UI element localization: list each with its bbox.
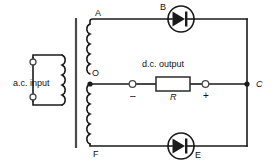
circuit-diagram: a.c. input d.c. output A B C E F O R – + xyxy=(0,0,277,165)
node-a-label: A xyxy=(95,9,101,18)
node-f-label: F xyxy=(93,150,99,159)
dc-output-negative-sign: – xyxy=(130,91,136,101)
diode-e-icon xyxy=(168,133,194,159)
transformer-secondary-lower xyxy=(87,84,90,144)
node-c-label: C xyxy=(256,80,263,89)
ac-input-terminal-top[interactable] xyxy=(30,59,36,65)
node-b-label: B xyxy=(160,3,166,12)
wire-f-to-diode-e xyxy=(90,144,168,146)
resistor-label: R xyxy=(170,93,177,102)
wire-a-to-diode-b xyxy=(90,19,168,24)
dc-output-terminal-negative[interactable] xyxy=(129,81,136,88)
ac-input-terminal-bottom[interactable] xyxy=(30,94,36,100)
transformer-group xyxy=(62,18,90,148)
diode-b-icon xyxy=(168,6,194,32)
transformer-primary-winding xyxy=(62,55,65,105)
ac-input-top-lead xyxy=(33,55,62,58)
dc-output-positive-sign: + xyxy=(203,91,209,101)
node-c-junction-dot xyxy=(244,81,249,86)
node-o-label: O xyxy=(92,69,99,78)
node-e-label: E xyxy=(195,151,201,160)
ac-input-bottom-lead xyxy=(33,101,62,105)
transformer-secondary-upper xyxy=(87,24,90,74)
node-o-junction-dot xyxy=(87,81,92,86)
dc-output-label: d.c. output xyxy=(142,60,184,69)
dc-output-branch-group xyxy=(90,77,247,91)
dc-output-terminal-positive[interactable] xyxy=(202,81,209,88)
load-resistor xyxy=(156,77,190,91)
ac-input-label: a.c. input xyxy=(13,79,50,88)
